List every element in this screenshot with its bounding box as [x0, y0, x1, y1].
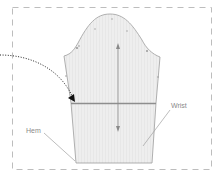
hem-label: Hem	[26, 127, 41, 134]
hem-leader-line	[44, 133, 75, 161]
sleeve-diagram	[0, 0, 218, 178]
sleeve-piece	[64, 14, 160, 163]
curved-dotted-arrow-icon	[0, 55, 75, 102]
wrist-label: Wrist	[171, 102, 187, 109]
